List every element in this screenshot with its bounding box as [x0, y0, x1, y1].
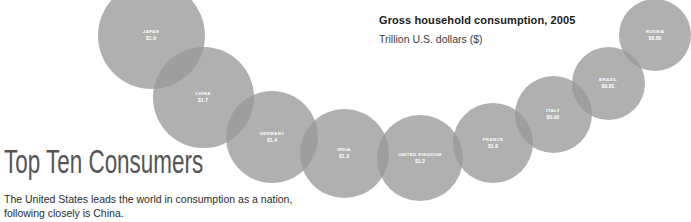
bubble-label-name: GERMANY — [260, 131, 285, 137]
bubble-label-name: ITALY — [546, 108, 560, 114]
bubble-label-value: $1.7 — [198, 97, 208, 104]
chart-subtitle: Trillion U.S. dollars ($) — [379, 33, 482, 45]
bubble-label-value: $1.0 — [488, 143, 498, 150]
bubble-label-value: $0.80 — [649, 35, 662, 42]
bubble-label-name: CHINA — [195, 91, 211, 97]
body-line-1: The United States leads the world in con… — [4, 192, 344, 206]
bubble-label-value: $1.3 — [339, 153, 349, 160]
bubble-label-name: JAPAN — [143, 29, 159, 35]
bubble-label-name: BRAZIL — [599, 77, 617, 83]
bubble-label-name: INDIA — [337, 147, 351, 153]
bubble-label-value: $1.9 — [146, 35, 156, 42]
bubble-label-value: $0.92 — [547, 114, 560, 121]
bubble-label-value: $0.81 — [602, 83, 615, 90]
chart-title: Gross household consumption, 2005 — [379, 14, 575, 26]
page-headline: Top Ten Consumers — [4, 143, 203, 181]
bubble-label-value: $1.4 — [267, 137, 277, 144]
bubble-label-name: UNITED KINGDOM — [398, 152, 442, 158]
body-copy: The United States leads the world in con… — [4, 192, 344, 220]
bubble-label-name: FRANCE — [483, 137, 503, 143]
bubble-united-kingdom: UNITED KINGDOM $1.2 — [377, 115, 463, 201]
bubble-russia: RUSSIA $0.80 — [619, 0, 691, 71]
infographic-canvas: JAPAN $1.9 CHINA $1.7 GERMANY $1.4 INDIA… — [0, 0, 691, 222]
bubble-label-value: $1.2 — [415, 158, 425, 165]
body-line-2: following closely is China. — [4, 206, 344, 220]
bubble-label-name: RUSSIA — [646, 29, 665, 35]
bubble-india: INDIA $1.3 — [300, 109, 389, 198]
